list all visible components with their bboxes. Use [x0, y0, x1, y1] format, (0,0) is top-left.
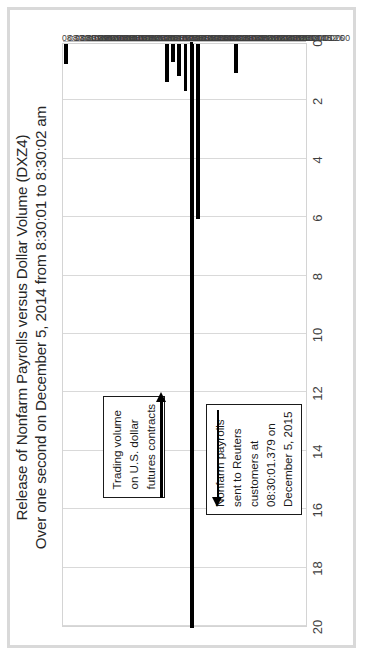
- rotated-chart-canvas: Release of Nonfarm Payrolls versus Dolla…: [10, 10, 353, 645]
- value-tick-label: 20: [310, 607, 325, 647]
- chart-subtitle: Over one second on December 5, 2014 from…: [31, 10, 50, 645]
- value-tick-label: 8: [310, 257, 325, 297]
- value-tick-label: 16: [310, 490, 325, 530]
- value-tick-label: 0: [310, 23, 325, 63]
- category-tick-label: 08:30:01.988: [62, 33, 111, 43]
- chart-title: Release of Nonfarm Payrolls versus Dolla…: [12, 10, 31, 645]
- value-axis: 20181614121086420: [310, 43, 336, 627]
- value-tick-label: 10: [310, 315, 325, 355]
- value-tick-label: 12: [310, 373, 325, 413]
- value-tick-label: 4: [310, 140, 325, 180]
- value-tick-label: 2: [310, 81, 325, 121]
- value-tick-label: 14: [310, 432, 325, 472]
- value-tick-label: 6: [310, 198, 325, 238]
- value-tick-label: 18: [310, 549, 325, 589]
- bar: [171, 44, 175, 62]
- category-axis: 08:30:01.00008:30:01.02608:30:01.05208:3…: [62, 61, 307, 645]
- figure-frame: Release of Nonfarm Payrolls versus Dolla…: [7, 7, 356, 648]
- figure-background: Release of Nonfarm Payrolls versus Dolla…: [10, 10, 353, 645]
- title-block: Release of Nonfarm Payrolls versus Dolla…: [12, 10, 51, 645]
